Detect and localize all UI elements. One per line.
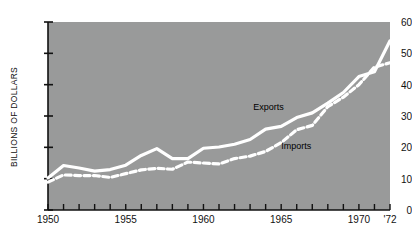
x-tick-label: 1950 <box>37 214 59 225</box>
plot-background <box>48 22 390 210</box>
chart-plot-area <box>0 0 412 240</box>
y-tick-label: 40 <box>373 79 412 90</box>
x-tick-label: '72 <box>383 214 396 225</box>
y-tick-label: 30 <box>373 111 412 122</box>
x-tick-label: 1970 <box>348 214 370 225</box>
y-tick-label: 50 <box>373 48 412 59</box>
y-tick-label: 10 <box>373 173 412 184</box>
x-tick-label: 1960 <box>192 214 214 225</box>
chart-figure: BILLIONS OF DOLLARS 0102030405060 195019… <box>0 0 412 240</box>
y-tick-label: 20 <box>373 142 412 153</box>
x-tick-label: 1955 <box>115 214 137 225</box>
series-label-exports: Exports <box>253 102 284 112</box>
x-tick-label: 1965 <box>270 214 292 225</box>
y-tick-label: 60 <box>373 17 412 28</box>
series-label-imports: Imports <box>281 141 311 151</box>
y-axis-title: BILLIONS OF DOLLARS <box>9 37 19 197</box>
